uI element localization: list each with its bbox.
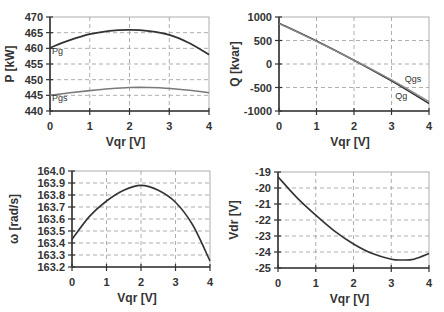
y-axis-label: P [kW] [3, 45, 17, 82]
x-tick-label: 1 [313, 277, 319, 289]
y-tick-label: -500 [250, 82, 272, 94]
y-tick-label: -1000 [244, 105, 272, 117]
x-tick-label: 4 [426, 277, 433, 289]
x-tick-label: 1 [313, 120, 319, 132]
x-tick-label: 0 [275, 277, 281, 289]
y-axis-label: Vdr [V] [227, 200, 241, 239]
y-tick-label: -19 [255, 166, 271, 178]
y-tick-label: -24 [255, 246, 272, 258]
x-tick-label: 1 [103, 276, 109, 288]
plot-rotor-voltage-d: -25-24-23-22-21-20-1901234Vqr [V]Vdr [V] [227, 166, 433, 306]
y-tick-label: 163.8 [37, 189, 65, 201]
x-tick-label: 2 [351, 120, 357, 132]
x-axis-label: Vqr [V] [117, 291, 156, 305]
y-tick-label: 1000 [248, 11, 272, 23]
series-annotation: Qgs [405, 74, 422, 84]
y-tick-label: 163.9 [37, 177, 65, 189]
x-tick-label: 3 [172, 276, 178, 288]
y-tick-label: -23 [255, 230, 271, 242]
plot-active-power: 44044545045546046547001234Vqr [V]P [kW]P… [3, 11, 213, 149]
y-tick-label: 455 [25, 58, 43, 70]
y-tick-label: -21 [255, 198, 271, 210]
y-tick-label: 460 [25, 42, 43, 54]
series-annotation: Pgs [52, 93, 68, 103]
y-axis-label: ω [rad/s] [7, 194, 21, 244]
x-tick-label: 4 [426, 120, 433, 132]
x-tick-label: 0 [47, 120, 53, 132]
x-tick-label: 1 [87, 120, 93, 132]
series-annotation: Qg [395, 91, 407, 101]
y-axis-label: Q [kvar] [228, 41, 242, 86]
x-axis-label: Vqr [V] [106, 135, 145, 149]
y-tick-label: 445 [25, 89, 43, 101]
x-tick-label: 0 [276, 120, 282, 132]
y-tick-label: 163.7 [37, 201, 65, 213]
x-tick-label: 3 [388, 277, 394, 289]
plot-reactive-power: -1000-5000500100001234Vqr [V]Q [kvar]QgQ… [228, 11, 433, 149]
x-tick-label: 4 [207, 276, 214, 288]
y-tick-label: 164.0 [37, 165, 65, 177]
y-tick-label: 450 [25, 74, 43, 86]
y-tick-label: 0 [266, 58, 272, 70]
y-tick-label: 163.3 [37, 249, 65, 261]
y-tick-label: 163.2 [37, 261, 65, 273]
y-tick-label: 163.4 [37, 237, 65, 249]
y-tick-label: 163.5 [37, 225, 65, 237]
x-tick-label: 2 [126, 120, 132, 132]
series-annotation: Pg [52, 46, 63, 56]
y-tick-label: 440 [25, 105, 43, 117]
x-tick-label: 0 [69, 276, 75, 288]
x-tick-label: 3 [166, 120, 172, 132]
x-tick-label: 4 [206, 120, 213, 132]
y-tick-label: 500 [254, 35, 272, 47]
x-tick-label: 3 [388, 120, 394, 132]
x-axis-label: Vqr [V] [330, 135, 369, 149]
x-tick-label: 2 [350, 277, 356, 289]
y-tick-label: -20 [255, 182, 271, 194]
x-axis-label: Vqr [V] [330, 292, 369, 306]
chart-figure: 44044545045546046547001234Vqr [V]P [kW]P… [0, 0, 444, 312]
y-tick-label: 465 [25, 27, 43, 39]
y-tick-label: -25 [255, 262, 271, 274]
y-tick-label: -22 [255, 214, 271, 226]
x-tick-label: 2 [138, 276, 144, 288]
plot-rotor-speed: 163.2163.3163.4163.5163.6163.7163.8163.9… [7, 165, 214, 305]
y-tick-label: 470 [25, 11, 43, 23]
y-tick-label: 163.6 [37, 213, 65, 225]
